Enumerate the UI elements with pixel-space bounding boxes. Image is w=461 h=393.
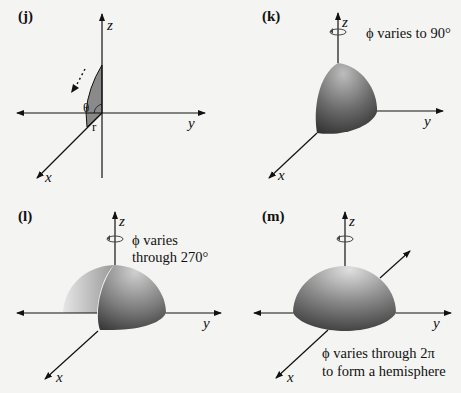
x-label-k: x (277, 167, 285, 183)
theta-label: θ (83, 100, 89, 115)
panel-m: (m) z y x ϕ varies through 2π to form a … (254, 208, 451, 385)
z-label-k: z (341, 14, 348, 30)
x-label-m: x (286, 369, 294, 385)
wedge-shape (86, 65, 102, 127)
neg-x-axis (380, 251, 410, 278)
panel-label-k: (k) (262, 8, 280, 25)
sweep-arrowhead-icon (71, 84, 79, 93)
x-axis (45, 331, 98, 379)
panel-k: (k) z y x ϕ varies to 90° (262, 8, 451, 183)
y-label-m: y (431, 315, 440, 331)
y-label-l: y (201, 315, 210, 331)
octant-shape (316, 63, 377, 134)
x-axis (269, 133, 317, 178)
front-quarters-shape (98, 265, 166, 330)
panel-label-l: (l) (18, 208, 32, 225)
caption-m-line1: ϕ varies through 2π (322, 345, 435, 361)
caption-l-line2: through 270° (132, 249, 208, 265)
z-label-l: z (118, 213, 125, 229)
panel-label-m: (m) (262, 208, 285, 225)
y-label-k: y (422, 113, 431, 129)
caption-k-line1: ϕ varies to 90° (366, 25, 451, 41)
hemisphere-shape (293, 266, 396, 331)
x-label-j: x (44, 169, 52, 185)
panel-j: (j) z y x θ r (17, 8, 205, 185)
panel-l: (l) z y x ϕ varies through 270° (17, 208, 221, 385)
caption-m-line2: to form a hemisphere (322, 363, 446, 379)
sweep-direction-arrow (75, 69, 85, 88)
y-label-j: y (186, 115, 195, 131)
x-axis (276, 330, 328, 378)
z-label-m: z (348, 213, 355, 229)
r-label: r (92, 119, 97, 134)
z-label-j: z (106, 17, 113, 33)
caption-l-line1: ϕ varies (132, 232, 178, 248)
x-label-l: x (55, 369, 63, 385)
panel-label-j: (j) (18, 8, 33, 25)
